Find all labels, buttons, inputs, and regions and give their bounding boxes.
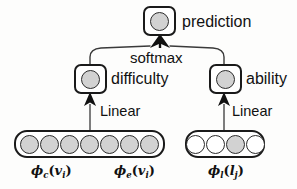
vector-right-unit xyxy=(206,135,225,154)
prediction-arrowhead xyxy=(150,34,170,48)
phi-e-arg-sub: i xyxy=(145,170,148,180)
difficulty-unit-icon xyxy=(81,70,100,89)
edge-label-linear-left: Linear xyxy=(100,104,140,119)
vector-right-unit xyxy=(246,135,265,154)
phi-e-sub: e xyxy=(126,170,131,180)
vector-right-unit xyxy=(226,135,245,154)
node-difficulty[interactable] xyxy=(74,64,107,94)
vector-box-right[interactable] xyxy=(185,130,265,158)
vector-left-unit xyxy=(80,135,99,154)
phi-l-arg: l xyxy=(230,163,235,178)
node-ability[interactable] xyxy=(209,64,242,94)
node-prediction[interactable] xyxy=(143,6,176,36)
edge-label-softmax: softmax xyxy=(130,50,183,65)
vector-left-unit xyxy=(40,135,59,154)
phi-l-symbol: ϕ xyxy=(208,163,220,178)
vector-left-unit xyxy=(100,135,119,154)
prediction-unit-icon xyxy=(150,12,169,31)
linear-right-arrowhead xyxy=(218,92,230,106)
phi-c-sub: c xyxy=(43,170,48,180)
linear-left-arrowhead xyxy=(84,92,96,106)
diagram-canvas: prediction softmax difficulty ability Li… xyxy=(0,0,297,189)
phi-c-arg-sub: i xyxy=(62,170,65,180)
vector-left-label-phi-e: ϕe(vi) xyxy=(114,164,155,177)
vector-box-left[interactable] xyxy=(14,130,165,158)
ability-unit-icon xyxy=(216,70,235,89)
vector-left-unit xyxy=(60,135,79,154)
phi-l-sub: l xyxy=(220,170,223,180)
phi-c-symbol: ϕ xyxy=(31,163,43,178)
vector-left-unit xyxy=(140,135,159,154)
node-ability-label: ability xyxy=(246,71,287,87)
node-prediction-label: prediction xyxy=(182,14,251,30)
vector-right-label-phi-l: ϕl(lj) xyxy=(208,164,244,177)
node-difficulty-label: difficulty xyxy=(111,71,169,87)
vector-left-unit xyxy=(120,135,139,154)
vector-right-unit xyxy=(186,135,205,154)
phi-l-arg-sub: j xyxy=(235,170,238,180)
vector-left-label-phi-c: ϕc(vi) xyxy=(31,164,72,177)
edge-label-linear-right: Linear xyxy=(232,104,272,119)
vector-left-unit xyxy=(20,135,39,154)
phi-e-symbol: ϕ xyxy=(114,163,126,178)
